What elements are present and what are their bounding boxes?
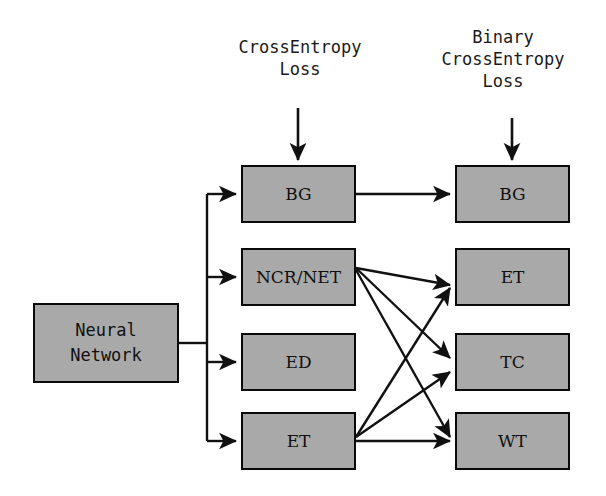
node-label-mid-ncr-net: NCR/NET xyxy=(256,267,341,287)
node-label-out-wt: WT xyxy=(498,431,527,451)
node-neural-network[interactable]: Neural Network xyxy=(33,303,179,383)
node-out-tc[interactable]: TC xyxy=(455,333,570,391)
node-mid-ed[interactable]: ED xyxy=(241,333,356,391)
node-label-mid-ed: ED xyxy=(285,352,311,372)
node-mid-ncr-net[interactable]: NCR/NET xyxy=(241,248,356,306)
edge-group-et-outputs xyxy=(356,288,450,441)
node-mid-bg[interactable]: BG xyxy=(241,165,356,223)
binary-cross-entropy-loss-label: Binary CrossEntropy Loss xyxy=(405,26,601,92)
node-out-wt[interactable]: WT xyxy=(455,412,570,470)
edge-group-nn-fanout xyxy=(179,194,236,441)
node-label-out-et: ET xyxy=(501,267,525,287)
node-out-et[interactable]: ET xyxy=(455,248,570,306)
node-label-neural-network: Neural Network xyxy=(70,318,142,368)
node-label-out-tc: TC xyxy=(500,352,524,372)
cross-entropy-loss-label: CrossEntropy Loss xyxy=(200,36,400,80)
node-out-bg[interactable]: BG xyxy=(455,165,570,223)
edge-group-ncr-outputs xyxy=(356,268,450,437)
node-label-mid-bg: BG xyxy=(285,184,311,204)
node-label-out-bg: BG xyxy=(499,184,525,204)
node-mid-et[interactable]: ET xyxy=(241,412,356,470)
node-label-mid-et: ET xyxy=(287,431,311,451)
